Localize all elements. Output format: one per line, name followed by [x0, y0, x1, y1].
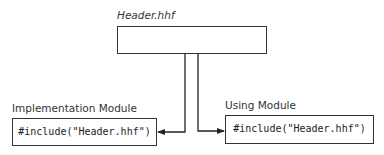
arrow-to-using: [198, 54, 224, 131]
arrow-to-implementation: [158, 54, 185, 132]
connector-arrows: [0, 0, 384, 155]
